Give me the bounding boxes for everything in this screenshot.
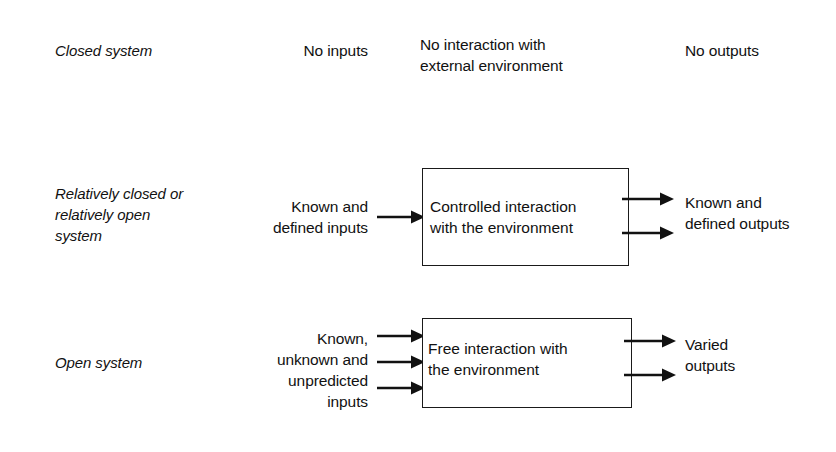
input-text-closed-system: No inputs <box>168 40 368 61</box>
output-text-open-system: Varied outputs <box>685 334 825 376</box>
system-types-diagram: Closed system No inputs No interaction w… <box>0 0 836 452</box>
input-arrow-open-system-3 <box>377 381 425 395</box>
input-arrow-open-system-2 <box>377 355 425 369</box>
output-text-relatively-closed-open-system: Known and defined outputs <box>685 192 835 234</box>
interaction-text-relatively-closed-open-system: Controlled interaction with the environm… <box>430 196 630 238</box>
interaction-text-open-system: Free interaction with the environment <box>428 338 633 380</box>
input-text-open-system: Known, unknown and unpredicted inputs <box>168 328 368 412</box>
interaction-text-closed-system: No interaction with external environment <box>420 34 635 76</box>
output-text-closed-system: No outputs <box>685 40 825 61</box>
input-text-relatively-closed-open-system: Known and defined inputs <box>168 196 368 238</box>
input-arrow-relatively-closed-open-system-1 <box>377 210 425 224</box>
input-arrow-open-system-1 <box>377 329 425 343</box>
